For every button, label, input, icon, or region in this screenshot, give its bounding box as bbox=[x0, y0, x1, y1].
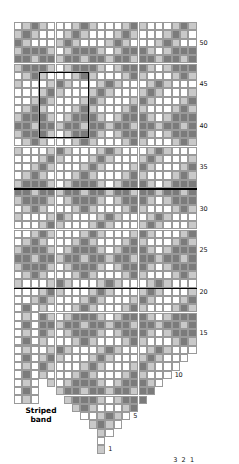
chart-cell bbox=[89, 271, 97, 279]
chart-cell bbox=[14, 254, 22, 262]
chart-cell bbox=[163, 39, 171, 47]
chart-cell bbox=[163, 354, 171, 362]
chart-cell bbox=[188, 97, 196, 105]
chart-cell bbox=[122, 337, 130, 345]
chart-cell bbox=[188, 321, 196, 329]
chart-cell bbox=[47, 321, 55, 329]
chart-cell bbox=[72, 39, 80, 47]
chart-cell bbox=[56, 213, 64, 221]
chart-cell bbox=[147, 30, 155, 38]
chart-cell bbox=[122, 155, 130, 163]
chart-cell bbox=[130, 404, 138, 412]
chart-cell bbox=[56, 279, 64, 287]
chart-cell bbox=[89, 313, 97, 321]
chart-cell bbox=[114, 55, 122, 63]
chart-cell bbox=[105, 371, 113, 379]
chart-cell bbox=[97, 246, 105, 254]
striped-band-cell bbox=[14, 362, 22, 370]
chart-cell bbox=[122, 122, 130, 130]
chart-cell bbox=[39, 171, 47, 179]
chart-cell bbox=[122, 271, 130, 279]
chart-cell bbox=[80, 296, 88, 304]
chart-cell bbox=[97, 304, 105, 312]
chart-cell bbox=[64, 30, 72, 38]
chart-cell bbox=[114, 138, 122, 146]
chart-cell bbox=[122, 379, 130, 387]
chart-cell bbox=[105, 30, 113, 38]
chart-cell bbox=[139, 246, 147, 254]
chart-cell bbox=[163, 163, 171, 171]
chart-cell bbox=[155, 122, 163, 130]
chart-cell bbox=[114, 271, 122, 279]
chart-cell bbox=[155, 138, 163, 146]
chart-cell bbox=[122, 321, 130, 329]
chart-cell bbox=[122, 354, 130, 362]
chart-cell bbox=[155, 97, 163, 105]
chart-cell bbox=[64, 72, 72, 80]
chart-cell bbox=[139, 64, 147, 72]
chart-cell bbox=[147, 304, 155, 312]
chart-cell bbox=[97, 80, 105, 88]
chart-cell bbox=[122, 171, 130, 179]
chart-cell bbox=[80, 362, 88, 370]
chart-cell bbox=[188, 55, 196, 63]
chart-cell bbox=[105, 362, 113, 370]
chart-cell bbox=[31, 113, 39, 121]
chart-cell bbox=[180, 113, 188, 121]
chart-cell bbox=[39, 321, 47, 329]
chart-cell bbox=[188, 155, 196, 163]
chart-cell bbox=[97, 379, 105, 387]
chart-cell bbox=[39, 346, 47, 354]
chart-cell bbox=[80, 155, 88, 163]
row-number-label: 10 bbox=[175, 372, 183, 379]
chart-cell bbox=[39, 147, 47, 155]
chart-cell bbox=[155, 196, 163, 204]
chart-cell bbox=[72, 113, 80, 121]
chart-cell bbox=[80, 30, 88, 38]
section-rule-left bbox=[14, 288, 197, 290]
chart-cell bbox=[97, 155, 105, 163]
chart-cell bbox=[14, 213, 22, 221]
chart-cell bbox=[56, 205, 64, 213]
chart-cell bbox=[72, 180, 80, 188]
chart-cell bbox=[64, 147, 72, 155]
chart-cell bbox=[139, 213, 147, 221]
row-number-label: 1 bbox=[108, 446, 112, 453]
chart-cell bbox=[147, 346, 155, 354]
chart-cell bbox=[139, 337, 147, 345]
chart-cell bbox=[130, 64, 138, 72]
chart-cell bbox=[114, 30, 122, 38]
chart-cell bbox=[56, 39, 64, 47]
chart-cell bbox=[180, 22, 188, 30]
chart-cell bbox=[22, 254, 30, 262]
chart-cell bbox=[39, 113, 47, 121]
chart-cell bbox=[172, 313, 180, 321]
chart-cell bbox=[122, 105, 130, 113]
chart-cell bbox=[14, 196, 22, 204]
chart-cell bbox=[105, 138, 113, 146]
chart-cell bbox=[147, 246, 155, 254]
chart-cell bbox=[31, 163, 39, 171]
chart-cell bbox=[172, 163, 180, 171]
chart-cell bbox=[155, 362, 163, 370]
chart-cell bbox=[97, 337, 105, 345]
striped-band-cell bbox=[14, 354, 22, 362]
chart-cell bbox=[80, 213, 88, 221]
chart-cell bbox=[89, 412, 97, 420]
chart-cell bbox=[147, 387, 155, 395]
chart-cell bbox=[47, 313, 55, 321]
chart-cell bbox=[114, 296, 122, 304]
chart-cell bbox=[155, 238, 163, 246]
chart-cell bbox=[56, 238, 64, 246]
chart-cell bbox=[80, 47, 88, 55]
chart-cell bbox=[47, 354, 55, 362]
chart-cell bbox=[97, 47, 105, 55]
chart-cell bbox=[56, 346, 64, 354]
striped-band-cell bbox=[31, 329, 39, 337]
chart-cell bbox=[105, 379, 113, 387]
chart-cell bbox=[180, 246, 188, 254]
chart-cell bbox=[155, 205, 163, 213]
chart-cell bbox=[14, 230, 22, 238]
chart-cell bbox=[130, 88, 138, 96]
chart-cell bbox=[14, 246, 22, 254]
